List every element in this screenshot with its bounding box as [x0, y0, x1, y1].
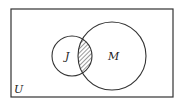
set-j-label: J: [63, 50, 70, 63]
venn-diagram: J M U: [0, 0, 178, 109]
universe-label: U: [14, 83, 24, 96]
set-m-label: M: [107, 50, 120, 63]
